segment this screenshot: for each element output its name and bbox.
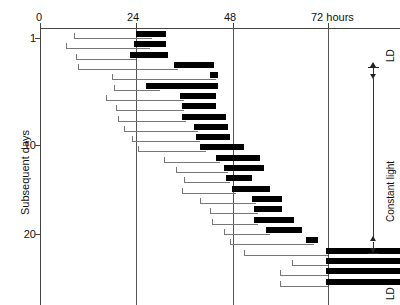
record-baseline: [210, 213, 258, 214]
actogram-row: [0, 143, 400, 153]
actogram-row: [0, 92, 400, 102]
actogram-row: [0, 123, 400, 133]
activity-bar: [326, 258, 400, 264]
actogram-row: [0, 257, 400, 267]
activity-bar: [194, 124, 228, 130]
actogram-row: [0, 40, 400, 50]
activity-bar: [210, 72, 218, 78]
actogram-row: [0, 236, 400, 246]
record-baseline: [244, 255, 328, 256]
record-baseline: [76, 59, 136, 60]
ld-bottom-cap: [368, 253, 379, 254]
actogram-row: [0, 51, 400, 61]
activity-bar: [136, 31, 166, 37]
actogram-figure: 0 24 48 72 hours Subsequent days 1 10 20…: [0, 0, 400, 305]
condition-label-ld-bottom: LD: [386, 287, 396, 300]
activity-bar: [130, 52, 168, 58]
constant-light-arrow-stem: [373, 76, 374, 240]
actogram-row: [0, 30, 400, 40]
activity-bar: [326, 279, 400, 285]
record-baseline: [74, 38, 152, 39]
record-baseline: [66, 48, 150, 49]
record-baseline: [124, 131, 198, 132]
actogram-row: [0, 174, 400, 184]
record-baseline: [112, 79, 216, 80]
record-baseline: [200, 203, 256, 204]
record-baseline: [182, 193, 236, 194]
actogram-row: [0, 278, 400, 288]
actogram-row: [0, 71, 400, 81]
actogram-row: [0, 216, 400, 226]
activity-bar: [232, 186, 270, 192]
activity-bar: [180, 93, 216, 99]
actogram-row: [0, 185, 400, 195]
record-baseline: [230, 244, 314, 245]
x-axis-line: [40, 28, 400, 29]
actogram-row: [0, 102, 400, 112]
ld-top-arrowhead-up: [370, 62, 376, 67]
activity-bar: [174, 62, 214, 68]
actogram-row: [0, 195, 400, 205]
activity-bar: [226, 175, 252, 181]
record-baseline: [116, 110, 184, 111]
record-baseline: [132, 141, 200, 142]
condition-label-ld-top: LD: [386, 49, 396, 62]
activity-bar: [196, 134, 230, 140]
ld-bottom-arrowhead-up: [370, 236, 376, 241]
actogram-row: [0, 164, 400, 174]
activity-bar: [326, 268, 400, 274]
actogram-row: [0, 61, 400, 71]
record-baseline: [224, 234, 270, 235]
record-baseline: [114, 90, 160, 91]
activity-bar: [266, 227, 302, 233]
record-baseline: [280, 275, 328, 276]
record-baseline: [280, 286, 328, 287]
actogram-row: [0, 133, 400, 143]
record-baseline: [138, 151, 206, 152]
record-baseline: [212, 224, 258, 225]
actogram-row: [0, 154, 400, 164]
activity-bar: [200, 144, 244, 150]
actogram-row: [0, 82, 400, 92]
activity-bar: [254, 217, 294, 223]
x-tick-label-48: 48: [224, 12, 236, 23]
x-tick-label-72: 72 hours: [311, 12, 354, 23]
record-baseline: [78, 69, 178, 70]
x-tick-0: [40, 23, 41, 29]
condition-label-constant-light: Constant light: [386, 161, 396, 222]
record-baseline: [106, 100, 184, 101]
activity-bar: [252, 196, 282, 202]
actogram-row: [0, 226, 400, 236]
actogram-row: [0, 267, 400, 277]
activity-bar: [182, 103, 216, 109]
activity-bar: [254, 206, 282, 212]
activity-bar: [216, 155, 260, 161]
actogram-row: [0, 205, 400, 215]
activity-bar: [306, 237, 318, 243]
activity-bar: [134, 41, 166, 47]
x-tick-label-0: 0: [36, 12, 42, 23]
record-baseline: [184, 182, 230, 183]
record-baseline: [164, 162, 220, 163]
activity-bar: [146, 83, 218, 89]
activity-bar: [326, 248, 400, 254]
x-tick-label-24: 24: [127, 12, 139, 23]
actogram-row: [0, 247, 400, 257]
record-baseline: [292, 265, 328, 266]
actogram-row: [0, 113, 400, 123]
activity-bar: [224, 165, 264, 171]
record-baseline: [118, 121, 186, 122]
record-baseline: [176, 172, 228, 173]
activity-bar: [182, 114, 226, 120]
